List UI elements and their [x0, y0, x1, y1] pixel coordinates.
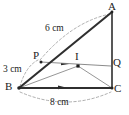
measure-label-BA: 6 cm	[45, 24, 64, 34]
vertex-label-C: C	[114, 83, 121, 94]
point-label-I: I	[75, 51, 79, 62]
point-dot-I	[76, 64, 79, 67]
point-label-P: P	[33, 50, 39, 61]
vertex-label-B: B	[5, 81, 12, 92]
vertex-label-A: A	[108, 1, 116, 12]
geometry-figure: A B C P Q I 6 cm 3 cm 8 cm	[0, 0, 129, 115]
point-label-Q: Q	[113, 57, 121, 68]
measure-label-BP: 3 cm	[3, 65, 22, 75]
segment-IC	[78, 66, 112, 88]
vertex-dot-B	[17, 86, 21, 90]
measure-label-BC: 8 cm	[50, 98, 69, 108]
point-dot-P	[40, 61, 43, 64]
